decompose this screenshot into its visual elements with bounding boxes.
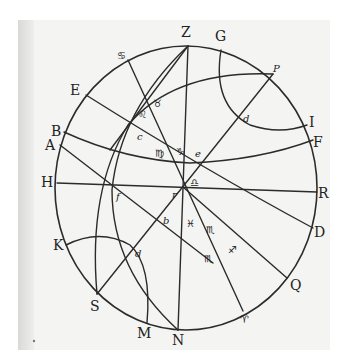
label-b: b — [163, 215, 169, 226]
mark-virgo: ♍ — [155, 148, 164, 159]
mark-capricorn: ♑ — [176, 146, 185, 157]
diagram-svg: Z G P I F R D Q ♈ N M S K H A B E ♋ d e … — [0, 0, 347, 362]
mark-pisces: ♓ — [186, 218, 195, 229]
label-D: D — [314, 224, 325, 240]
mark-taurus: ♉ — [153, 98, 162, 109]
label-e: e — [195, 148, 201, 159]
label-F: F — [313, 134, 323, 150]
label-P: P — [272, 63, 280, 74]
print-speck — [33, 340, 35, 342]
arc-G-I — [219, 50, 307, 130]
label-c: c — [137, 131, 143, 142]
label-K: K — [53, 237, 64, 253]
label-N: N — [172, 332, 184, 348]
label-I: I — [309, 114, 315, 130]
label-M: M — [137, 325, 151, 341]
label-aries: ♈ — [240, 314, 249, 325]
label-E: E — [70, 82, 80, 98]
label-B: B — [51, 123, 61, 139]
label-d-upper: d — [243, 113, 249, 124]
label-H: H — [41, 174, 53, 190]
label-cancer: ♋ — [117, 50, 126, 61]
label-d-lower: d — [135, 248, 141, 259]
label-G: G — [215, 28, 226, 44]
mark-libra: ♎ — [190, 177, 199, 188]
label-R: R — [318, 185, 329, 201]
label-Q: Q — [290, 277, 301, 293]
diagram-figure: Z G P I F R D Q ♈ N M S K H A B E ♋ d e … — [0, 0, 347, 362]
label-A: A — [44, 137, 56, 153]
label-Z: Z — [181, 24, 191, 40]
mark-scorpio-lower: ♏ — [204, 253, 213, 264]
mark-leo: ♌ — [138, 109, 147, 120]
mark-scorpio: ♏ — [206, 224, 215, 235]
mark-sagittarius: ♐ — [228, 244, 237, 255]
line-center-Q — [183, 187, 287, 278]
label-S: S — [90, 298, 100, 314]
arc-E-D — [86, 95, 313, 228]
